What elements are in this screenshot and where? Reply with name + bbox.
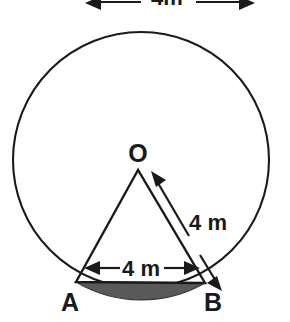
arrow-up-icon — [151, 171, 166, 187]
arrow-right-icon-top — [239, 0, 255, 10]
radius-length-label: 4 m — [189, 210, 227, 235]
chord-length-label: 4 m — [122, 256, 160, 281]
figure-canvas: 4 m 4 m 4m O A B — [0, 0, 290, 322]
shaded-segment — [76, 282, 205, 300]
diameter-length-label: 4m — [151, 0, 183, 10]
point-label-b: B — [204, 288, 222, 316]
point-label-o: O — [128, 139, 147, 167]
point-label-a: A — [61, 288, 79, 316]
geometry-figure: 4 m 4 m 4m O A B — [0, 0, 290, 322]
arrow-left-icon-top — [85, 0, 101, 10]
